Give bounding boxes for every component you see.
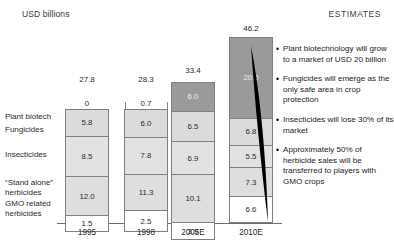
bar-xlabel-1995: 1995 <box>65 228 109 237</box>
bullet-item: • Approximately 50% of herbicide sales w… <box>276 145 394 187</box>
insights-bullet-list: • Plant biotechnology will grow to a mar… <box>276 44 394 197</box>
segment-stand-alone-herbicides-1998: 11.3 <box>124 174 168 210</box>
bar-total-1998: 28.3 <box>124 75 168 84</box>
bullet-text: Insecticides will lose 30% of its market <box>283 115 394 135</box>
bullet-marker-icon: • <box>276 115 279 126</box>
bullet-item: • Insecticides will lose 30% of its mark… <box>276 115 394 136</box>
segment-fungicides-1998: 6.0 <box>124 109 168 137</box>
bar-total-2010E: 46.2 <box>229 24 273 33</box>
blade-divider-shape <box>249 44 273 224</box>
slide-canvas: USD billions ESTIMATES Plant biotech Fun… <box>0 0 394 250</box>
segment-insecticides-1998: 7.8 <box>124 137 168 174</box>
bullet-item: • Plant biotechnology will grow to a mar… <box>276 44 394 65</box>
estimates-header: ESTIMATES <box>329 9 382 19</box>
bullet-marker-icon: • <box>276 44 279 55</box>
bar-xlabel-2005E: 2005E <box>171 228 215 237</box>
bar-xlabel-1998: 1998 <box>124 228 168 237</box>
bar-2005E[interactable]: 6.0 6.5 6.9 10.1 3.9 <box>171 82 215 240</box>
segment-insecticides-1995: 8.5 <box>65 136 109 176</box>
bullet-marker-icon: • <box>276 74 279 85</box>
segment-fungicides-2005E: 6.5 <box>171 111 215 142</box>
segment-insecticides-2005E: 6.9 <box>171 141 215 174</box>
stacked-bar-chart: 27.8 5.8 8.5 12.0 1.5 0 1995 28.3 6.0 7.… <box>0 0 250 250</box>
bar-1995[interactable]: 5.8 8.5 12.0 1.5 <box>65 109 109 232</box>
bullet-text: Approximately 50% of herbicide sales wil… <box>283 145 376 186</box>
bar-xlabel-2010E: 2010E <box>229 228 273 237</box>
bar-1998[interactable]: 6.0 7.8 11.3 2.5 <box>124 109 168 233</box>
bullet-marker-icon: • <box>276 145 279 156</box>
segment-fungicides-1995: 5.8 <box>65 109 109 137</box>
bar-total-2005E: 33.4 <box>171 66 215 75</box>
segment-stand-alone-herbicides-1995: 12.0 <box>65 176 109 215</box>
bullet-text: Plant biotechnology will grow to a marke… <box>283 44 387 64</box>
bullet-item: • Fungicides will emerge as the only saf… <box>276 74 394 106</box>
footnote-cutoff <box>18 244 258 249</box>
bullet-text: Fungicides will emerge as the only safe … <box>283 74 390 104</box>
segment-stand-alone-herbicides-2005E: 10.1 <box>171 174 215 222</box>
segment-plant-biotech-2005E: 6.0 <box>171 82 215 111</box>
bar-total-1995: 27.8 <box>65 75 109 84</box>
